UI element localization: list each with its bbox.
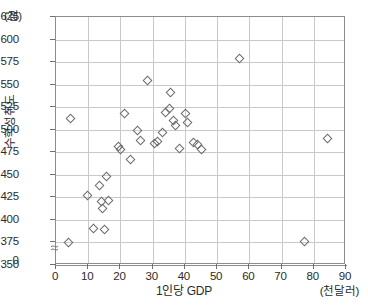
data-point	[120, 109, 130, 119]
x-axis-tick-mark	[87, 264, 88, 269]
data-point	[82, 190, 92, 200]
data-point	[126, 155, 136, 165]
y-axis-tick-mark	[50, 106, 55, 107]
x-axis-unit-label: (천달러)	[320, 285, 359, 298]
data-point	[101, 171, 111, 181]
x-axis-tick-label: 0	[42, 270, 68, 282]
y-axis-tick-label: 525	[0, 100, 19, 112]
x-axis-tick-label: 40	[171, 270, 197, 282]
y-axis-tick-label: 375	[0, 235, 19, 247]
y-axis-tick-label: 625	[0, 10, 19, 22]
data-point	[136, 135, 146, 145]
data-point	[196, 145, 206, 155]
x-axis-tick-label: 70	[268, 270, 294, 282]
y-axis-tick-label: 550	[0, 78, 19, 90]
y-axis-tick-mark	[50, 39, 55, 40]
x-axis-tick-label: 60	[235, 270, 261, 282]
scatter-chart: (점) 수학성취도 0 1인당 GDP (천달러) 35037540042545…	[0, 0, 368, 306]
gridline-vertical	[185, 17, 186, 263]
x-axis-tick-label: 20	[106, 270, 132, 282]
y-axis-tick-label: 600	[0, 33, 19, 45]
y-axis-tick-mark	[50, 196, 55, 197]
y-axis-tick-label: 450	[0, 168, 19, 180]
gridline-horizontal	[56, 40, 344, 41]
gridline-vertical	[249, 17, 250, 263]
gridline-horizontal	[56, 130, 344, 131]
gridline-horizontal	[56, 175, 344, 176]
gridline-vertical	[88, 17, 89, 263]
data-point	[165, 87, 175, 97]
data-point	[299, 237, 309, 247]
x-axis-line	[55, 265, 347, 266]
y-axis-tick-label: 350	[0, 258, 19, 270]
x-axis-tick-mark	[313, 264, 314, 269]
data-point	[181, 109, 191, 119]
data-point	[63, 238, 73, 248]
data-point	[100, 224, 110, 234]
y-axis-tick-label: 575	[0, 55, 19, 67]
y-axis-tick-label: 500	[0, 123, 19, 135]
axis-break-icon	[49, 241, 63, 255]
y-axis-tick-mark	[50, 174, 55, 175]
x-axis-title: 1인당 GDP	[0, 285, 368, 298]
gridline-vertical	[314, 17, 315, 263]
x-axis-tick-mark	[248, 264, 249, 269]
y-axis-tick-mark	[50, 129, 55, 130]
x-axis-tick-mark	[345, 264, 346, 269]
gridline-horizontal	[56, 62, 344, 63]
data-point	[89, 223, 99, 233]
x-axis-tick-label: 80	[300, 270, 326, 282]
data-point	[132, 125, 142, 135]
data-point	[65, 113, 75, 123]
gridline-horizontal	[56, 220, 344, 221]
x-axis-tick-mark	[184, 264, 185, 269]
data-point	[143, 76, 153, 86]
y-axis-tick-mark	[50, 219, 55, 220]
x-axis-tick-label: 10	[74, 270, 100, 282]
gridline-horizontal	[56, 85, 344, 86]
data-point	[98, 204, 108, 214]
y-axis-tick-mark	[50, 16, 55, 17]
y-axis-tick-label: 400	[0, 213, 19, 225]
gridline-horizontal	[56, 107, 344, 108]
x-axis-tick-mark	[119, 264, 120, 269]
y-axis-tick-label: 425	[0, 190, 19, 202]
x-axis-tick-label: 30	[139, 270, 165, 282]
data-point	[116, 145, 126, 155]
y-axis-tick-mark	[50, 61, 55, 62]
gridline-vertical	[217, 17, 218, 263]
y-axis-tick-mark	[50, 151, 55, 152]
x-axis-tick-label: 50	[203, 270, 229, 282]
x-axis-tick-mark	[55, 264, 56, 269]
data-point	[322, 133, 332, 143]
x-axis-tick-label: 90	[332, 270, 358, 282]
gridline-vertical	[282, 17, 283, 263]
plot-area	[55, 16, 345, 264]
x-axis-tick-mark	[281, 264, 282, 269]
x-axis-tick-mark	[216, 264, 217, 269]
y-axis-tick-mark	[50, 84, 55, 85]
y-axis-tick-label: 475	[0, 145, 19, 157]
x-axis-tick-mark	[152, 264, 153, 269]
data-point	[94, 180, 104, 190]
gridline-vertical	[120, 17, 121, 263]
y-axis-tick-mark	[50, 241, 55, 242]
